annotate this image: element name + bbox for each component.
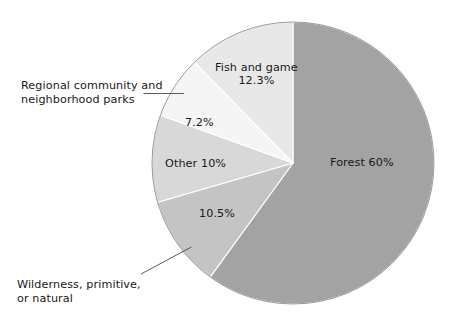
pie-slices-group — [152, 22, 434, 304]
callout-label-regional-community-line2: neighborhood parks — [21, 93, 163, 107]
callout-label-regional-community: Regional community and neighborhood park… — [21, 79, 163, 107]
callout-label-wilderness-line2: or natural — [17, 292, 141, 306]
callout-label-wilderness-line1: Wilderness, primitive, — [17, 278, 141, 292]
leader-line-wilderness — [141, 247, 192, 274]
callout-label-wilderness: Wilderness, primitive, or natural — [17, 278, 141, 306]
pie-chart-figure: Forest 60% Fish and game 12.3% 7.2% Othe… — [0, 0, 459, 325]
pie-chart-canvas — [0, 0, 459, 325]
callout-label-regional-community-line1: Regional community and — [21, 79, 163, 93]
